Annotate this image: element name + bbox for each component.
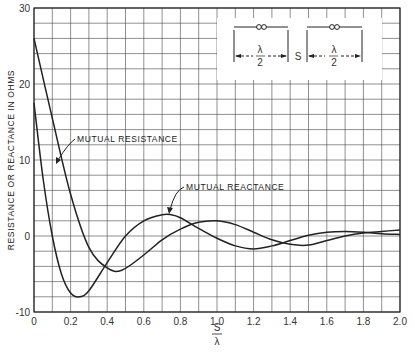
x-tick-label: 1.4 xyxy=(283,316,297,327)
x-tick-label: 0.4 xyxy=(100,316,114,327)
y-axis-label: RESISTANCE OR REACTANCE IN OHMS xyxy=(6,70,16,250)
x-tick-label: 0.8 xyxy=(173,316,187,327)
inset-right-two: 2 xyxy=(331,57,337,68)
mutual-resistance-label: MUTUAL RESISTANCE xyxy=(77,134,178,144)
inset-spacing-label: S xyxy=(295,51,302,62)
y-tick-label: 20 xyxy=(19,79,31,90)
x-axis-label-num: S xyxy=(214,322,221,333)
x-axis-label-den: λ xyxy=(215,336,220,347)
y-tick-label: 0 xyxy=(24,231,30,242)
inset-right-lambda: λ xyxy=(332,44,337,55)
inset-left-lambda: λ xyxy=(258,44,263,55)
y-tick-label: 30 xyxy=(19,3,31,14)
inset-left-two: 2 xyxy=(257,57,263,68)
y-tick-label: -10 xyxy=(16,307,31,318)
dipole-inset: λ 2 S λ 2 xyxy=(217,18,382,80)
mutual-reactance-label: MUTUAL REACTANCE xyxy=(186,182,284,192)
y-tick-label: 10 xyxy=(19,155,31,166)
x-tick-label: 0.6 xyxy=(137,316,151,327)
x-tick-label: 1.6 xyxy=(320,316,334,327)
x-tick-label: 1.2 xyxy=(247,316,261,327)
x-tick-label: 0.2 xyxy=(64,316,78,327)
x-tick-label: 1.8 xyxy=(356,316,370,327)
x-tick-label: 2.0 xyxy=(393,316,407,327)
x-tick-label: 0 xyxy=(31,316,37,327)
annotations: MUTUAL RESISTANCE MUTUAL REACTANCE xyxy=(56,134,284,214)
chart: 00.20.40.60.81.01.21.41.61.82.0-10010203… xyxy=(0,0,415,353)
